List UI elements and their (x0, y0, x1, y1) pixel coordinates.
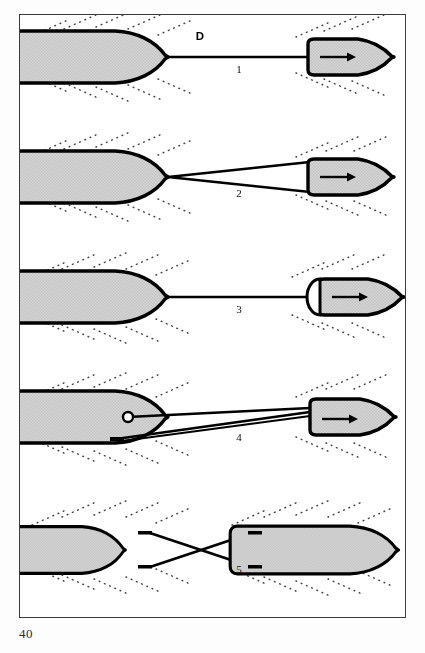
stern-fender-panel-3 (307, 279, 320, 315)
panel-number-1: 1 (236, 63, 242, 75)
panel-2: 2 (20, 132, 394, 222)
cleat-lower-right-panel-5 (248, 565, 262, 569)
panel-1: D 1 (20, 15, 394, 102)
panel-4: 4 (20, 372, 396, 466)
cleat-upper-right-panel-5 (248, 531, 262, 535)
cleat-upper-left-panel-5 (138, 531, 152, 535)
panel-number-2: 2 (236, 187, 242, 199)
cleat-lower-left-panel-5 (138, 565, 152, 569)
bollard-panel-4 (123, 412, 133, 422)
direction-label-D: D (196, 30, 204, 42)
towed-vessel-panel-5 (20, 527, 125, 574)
panel-number-4: 4 (236, 431, 242, 443)
panel-number-3: 3 (236, 303, 242, 315)
figure-frame: D 1 (19, 14, 406, 618)
towed-vessel-panel-3 (20, 271, 168, 323)
cleat-panel-4 (110, 437, 124, 441)
panel-3: 3 (20, 252, 404, 344)
panel-number-5: 5 (236, 563, 242, 575)
towing-arrangements-diagram: D 1 (20, 15, 405, 617)
page-canvas: D 1 (0, 0, 425, 653)
page-number: 40 (19, 626, 33, 642)
towed-vessel-panel-1 (20, 31, 168, 83)
towed-vessel-panel-2 (20, 151, 168, 203)
panel-5: 5 (20, 500, 399, 596)
